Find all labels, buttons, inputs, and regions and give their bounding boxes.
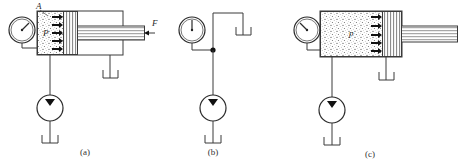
piston-a bbox=[64, 12, 78, 55]
force-arrow-a: F bbox=[144, 18, 158, 36]
gauge-needle-a bbox=[22, 23, 29, 30]
panel-c: p (c) bbox=[294, 11, 458, 159]
gauge-needle-c bbox=[300, 23, 307, 30]
pump-flow-triangle-a bbox=[45, 99, 55, 106]
panel-b: (b) bbox=[179, 13, 251, 157]
caption-c: (c) bbox=[365, 149, 375, 159]
cylinder-c bbox=[320, 11, 458, 57]
reservoir-bottom-a bbox=[42, 121, 58, 143]
pressure-gauge-c[interactable] bbox=[294, 17, 320, 50]
pressure-gauge-b[interactable] bbox=[179, 17, 213, 50]
panel-a: A P F bbox=[9, 1, 158, 157]
piston-rod-a bbox=[78, 26, 145, 40]
reservoir-bottom-b bbox=[205, 121, 221, 143]
piston-c bbox=[383, 12, 402, 57]
hydraulic-pump-c[interactable] bbox=[319, 97, 345, 123]
piston-rod-c bbox=[402, 26, 458, 42]
hydraulic-pump-a[interactable] bbox=[37, 95, 63, 121]
pump-flow-triangle-b bbox=[208, 99, 218, 106]
label-force-a: F bbox=[151, 18, 158, 28]
pump-flow-triangle-c bbox=[327, 101, 337, 108]
cylinder-a bbox=[37, 11, 145, 55]
caption-b: (b) bbox=[208, 147, 219, 157]
label-pressure-a: P bbox=[42, 28, 49, 38]
top-branch-b bbox=[213, 13, 251, 50]
schematic-svg: A P F bbox=[0, 0, 458, 164]
reservoir-bottom-c bbox=[324, 123, 340, 145]
pressure-gauge-a[interactable] bbox=[9, 17, 37, 48]
caption-a: (a) bbox=[80, 147, 90, 157]
reservoir-right-a bbox=[103, 55, 118, 78]
reservoir-right-c bbox=[379, 57, 394, 80]
label-pressure-c: p bbox=[348, 28, 354, 38]
hydraulic-pump-b[interactable] bbox=[200, 95, 226, 121]
figure-canvas: A P F bbox=[0, 0, 458, 164]
label-area-a: A bbox=[35, 1, 42, 11]
